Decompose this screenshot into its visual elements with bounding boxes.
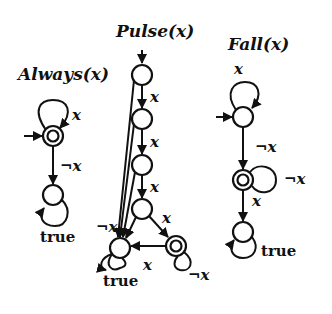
always-title: Always(x) [16, 64, 109, 84]
pulse-automaton: Pulse(x) x x x ¬x x true x ¬x [96, 21, 211, 290]
pulse-neg-label: ¬x [96, 218, 119, 236]
always-sink-label: true [40, 228, 75, 246]
pulse-acc-loop-label: ¬x [188, 266, 211, 284]
pulse-acc-sink-label: x [142, 256, 153, 274]
always-state-accepting-inner [48, 131, 59, 142]
pulse-edge-1-label: x [149, 88, 160, 106]
fall-automaton: Fall(x) x ¬x ¬x x true [216, 34, 307, 260]
pulse-state-sink [110, 238, 130, 258]
pulse-neg-edge-1 [118, 80, 134, 237]
fall-sink-label: true [261, 242, 296, 260]
fall-title: Fall(x) [227, 34, 289, 54]
pulse-edge-4-label: x [161, 209, 172, 227]
pulse-edge-2-label: x [149, 133, 160, 151]
pulse-edge-3-label: x [149, 178, 160, 196]
fall-state-sink [233, 222, 253, 242]
pulse-title: Pulse(x) [115, 21, 194, 41]
always-loop-label: x [71, 106, 82, 124]
fall-acc-loop-label: ¬x [284, 170, 307, 188]
fall-edge-label-1: ¬x [255, 138, 278, 156]
fall-edge-label-2: x [251, 192, 262, 210]
fall-loop-label: x [233, 60, 244, 78]
fall-state-start [233, 107, 253, 127]
pulse-state-accepting-inner [171, 241, 182, 252]
automata-figure: Always(x) x ¬x true Pulse(x) x x x [0, 0, 332, 314]
pulse-sink-label: true [103, 272, 138, 290]
pulse-state-1 [132, 65, 152, 85]
pulse-neg-edge-4 [126, 217, 136, 238]
pulse-state-2 [132, 109, 152, 129]
fall-start-self-loop [231, 82, 259, 110]
always-edge-label: ¬x [60, 157, 83, 175]
always-state-sink [43, 185, 63, 205]
fall-state-accepting-inner [238, 175, 249, 186]
